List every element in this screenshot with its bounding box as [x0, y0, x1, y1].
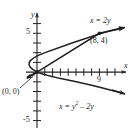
curve-parabola [29, 27, 125, 93]
intersection-point-marker [98, 32, 102, 36]
x-tick-label-9: 9 [97, 76, 101, 84]
origin-point-marker [35, 70, 39, 74]
parabola-eq-suffix: – 2y [78, 102, 94, 111]
graph-svg [0, 0, 131, 135]
x-axis-label: x [124, 62, 128, 70]
y-tick-label-neg5: -5 [23, 116, 30, 124]
y-tick-label-5: 5 [26, 28, 30, 36]
y-axis-label: y [31, 11, 35, 19]
line-equation-label: x = 2y [90, 17, 111, 25]
intersection-point-label: (8, 4) [90, 37, 107, 45]
parabola-eq-prefix: x = y [59, 102, 76, 111]
origin-point-label: (0, 0) [2, 88, 19, 96]
parabola-equation-label: x = y2 – 2y [59, 101, 94, 111]
parabola-arrow-lower [112, 90, 125, 94]
